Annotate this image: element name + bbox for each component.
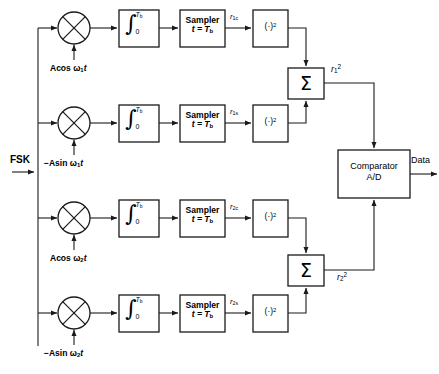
lo-fn-1: cos	[56, 63, 71, 73]
lo-time-2: t	[80, 158, 83, 168]
integral-upper-2: Tb	[135, 106, 142, 114]
local-oscillator-label-1: Acos ω1t	[50, 64, 87, 74]
integral-lower-3: 0	[135, 218, 142, 225]
integral-lower-1: 0	[135, 28, 142, 35]
data-output-label: Data	[411, 156, 430, 165]
integrator-box-2: ∫ Tb 0	[125, 107, 157, 140]
local-oscillator-label-4: −Asin ω2t	[44, 349, 83, 359]
lo-fn-3: cos	[56, 253, 71, 263]
fsk-input-label: FSK	[10, 155, 30, 166]
fsk-demodulator-diagram: FSK Acos ω1t ∫ Tb 0 Sampler t = Tb r1c (…	[0, 0, 439, 374]
lo-fn-4: sin	[55, 348, 67, 358]
sampler-line2-4: t = Tb	[180, 310, 225, 320]
sampler-line2-2: t = Tb	[180, 120, 225, 130]
lo-omega-4: ω	[70, 348, 77, 358]
lo-omega-2: ω	[70, 158, 77, 168]
squarer-box-3: (·)2	[253, 212, 288, 221]
integral-lower-2: 0	[135, 123, 142, 130]
summer-2-output-label: r22	[337, 272, 347, 283]
lo-fn-2: sin	[55, 158, 67, 168]
summer-2-symbol: Σ	[288, 255, 324, 286]
signal-label-2s: r2s	[230, 298, 238, 307]
integral-upper-1: Tb	[135, 11, 142, 19]
comparator-box: Comparator A/D	[338, 161, 410, 184]
sampler-line2-3: t = Tb	[180, 215, 225, 225]
integral-upper-4: Tb	[135, 296, 142, 304]
squarer-box-2: (·)2	[253, 117, 288, 126]
sampler-box-3: Sampler t = Tb	[180, 206, 225, 225]
local-oscillator-label-2: −Asin ω1t	[44, 159, 83, 169]
signal-label-2c: r2c	[230, 203, 238, 212]
integral-upper-3: Tb	[135, 201, 142, 209]
summer-1-symbol: Σ	[288, 68, 324, 99]
summer-1-output-label: r12	[331, 64, 341, 75]
integrator-box-4: ∫ Tb 0	[125, 297, 157, 330]
integral-lower-4: 0	[135, 313, 142, 320]
sampler-box-2: Sampler t = Tb	[180, 111, 225, 130]
squarer-box-1: (·)2	[253, 22, 288, 31]
integrator-box-3: ∫ Tb 0	[125, 202, 157, 235]
signal-label-1s: r1s	[230, 108, 238, 117]
local-oscillator-label-3: Acos ω2t	[50, 254, 87, 264]
lo-time-4: t	[80, 348, 83, 358]
sampler-box-4: Sampler t = Tb	[180, 301, 225, 320]
integrator-box-1: ∫ Tb 0	[125, 12, 157, 45]
signal-label-1c: r1c	[230, 13, 238, 22]
lo-time-1: t	[84, 63, 87, 73]
lo-prefix-4: −A	[44, 348, 55, 358]
sampler-line2-1: t = Tb	[180, 25, 225, 35]
comparator-line1: Comparator	[338, 161, 410, 172]
lo-time-3: t	[84, 253, 87, 263]
lo-prefix-2: −A	[44, 158, 55, 168]
comparator-line2: A/D	[338, 172, 410, 183]
sampler-box-1: Sampler t = Tb	[180, 16, 225, 35]
input-bus	[12, 28, 57, 346]
squarer-box-4: (·)2	[253, 307, 288, 316]
